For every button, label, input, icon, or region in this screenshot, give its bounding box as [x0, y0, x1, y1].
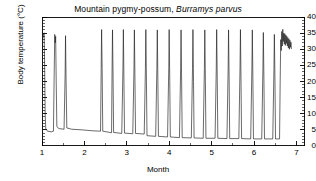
figure-container: Mountain pygmy-possum, Burramys parvus B…	[0, 0, 316, 181]
x-tick-label: 3	[117, 149, 137, 157]
y-axis-label: Body temperature (°C)	[16, 0, 25, 115]
x-axis-label: Month	[0, 165, 316, 174]
x-tick-label: 1	[32, 149, 52, 157]
plot-area	[42, 17, 305, 146]
ticks-group	[42, 17, 305, 146]
x-tick-label: 6	[244, 149, 264, 157]
axes-group	[42, 17, 305, 146]
body-temperature-trace	[42, 29, 291, 139]
x-tick-label: 4	[159, 149, 179, 157]
x-tick-label: 7	[287, 149, 307, 157]
chart-title-species: Burramys parvus	[176, 4, 242, 14]
chart-svg	[42, 17, 305, 146]
x-tick-label: 2	[74, 149, 94, 157]
chart-title: Mountain pygmy-possum, Burramys parvus	[0, 4, 316, 14]
x-tick-label: 5	[202, 149, 222, 157]
chart-title-common: Mountain pygmy-possum,	[74, 4, 176, 14]
